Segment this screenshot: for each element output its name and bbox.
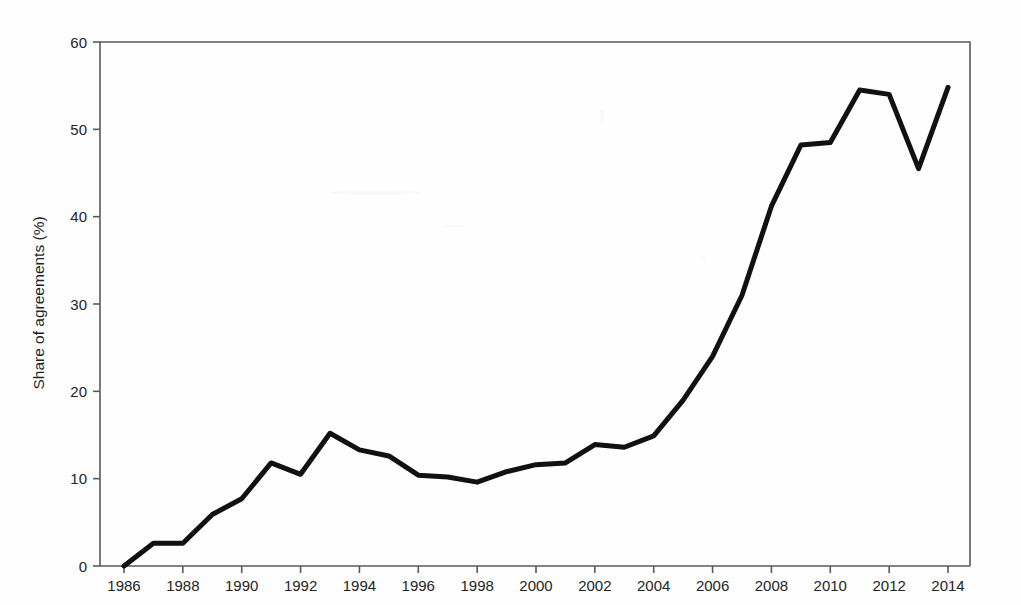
x-tick-label: 1990	[225, 577, 258, 594]
y-tick-label: 40	[70, 208, 87, 225]
y-tick-label: 10	[70, 470, 87, 487]
line-chart: 0102030405060 19861988199019921994199619…	[0, 0, 1021, 605]
chart-figure: 0102030405060 19861988199019921994199619…	[0, 0, 1021, 605]
x-tick-label: 2000	[519, 577, 552, 594]
x-tick-label: 2010	[814, 577, 847, 594]
x-tick-label: 2008	[755, 577, 788, 594]
y-tick-label: 20	[70, 383, 87, 400]
x-tick-label: 1992	[284, 577, 317, 594]
x-tick-label: 1986	[107, 577, 140, 594]
y-axis-title: Share of agreements (%)	[30, 216, 47, 389]
x-tick-label: 1996	[402, 577, 435, 594]
y-tick-label: 60	[70, 34, 87, 51]
x-tick-label: 1998	[460, 577, 493, 594]
x-tick-label: 1988	[166, 577, 199, 594]
x-tick-label: 1994	[343, 577, 376, 594]
x-tick-label: 2002	[578, 577, 611, 594]
x-tick-label: 2014	[931, 577, 964, 594]
y-tick-label: 30	[70, 296, 87, 313]
x-tick-label: 2004	[637, 577, 670, 594]
x-tick-label: 2012	[872, 577, 905, 594]
y-tick-label: 50	[70, 121, 87, 138]
x-tick-label: 2006	[696, 577, 729, 594]
y-tick-label: 0	[79, 558, 87, 575]
